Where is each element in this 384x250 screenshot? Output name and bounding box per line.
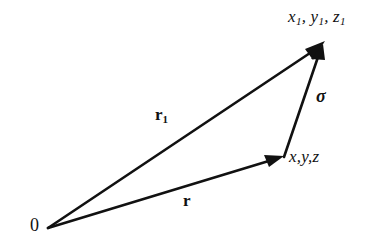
coord-x-subscript: 1 [296,15,302,27]
vector-sigma-shaft [284,57,318,157]
coordinate-label-x1y1z1: x1, y1, z1 [288,8,346,25]
coord-y-symbol: , y [302,7,319,26]
vector-diagram-figure: x1, y1, z1 x,y,z r1 r σ 0 [0,0,384,250]
vector-r1-shaft [48,49,316,228]
coord-y-subscript: 1 [318,15,324,27]
vector-r-arrow [48,155,284,228]
vector-label-sigma: σ [316,87,326,105]
vector-diagram-canvas [0,0,384,250]
vector-r1-subscript: 1 [163,113,169,125]
vector-r1-symbol: r [155,105,163,124]
vector-r-shaft [48,160,272,228]
coord-x-symbol: x [288,7,296,26]
origin-label: 0 [30,216,39,234]
coordinate-label-xyz: x,y,z [289,148,319,165]
coord-z-symbol: , z [324,7,340,26]
vector-label-r1: r1 [155,106,168,123]
vector-label-r: r [183,192,191,209]
vector-r-arrowhead [264,155,284,167]
coord-z-subscript: 1 [340,15,346,27]
